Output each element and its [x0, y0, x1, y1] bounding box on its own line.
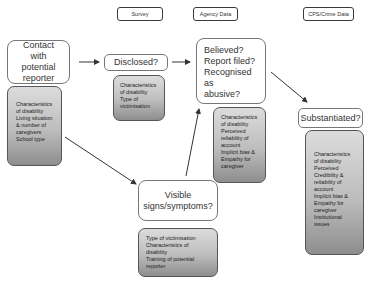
factor-line: reporter [146, 263, 211, 270]
factor-line: Empathy for [314, 200, 357, 207]
factors-disclosed: Characteristics of disability Type of vi… [113, 75, 165, 121]
node-visible-line-2: signs/symptoms? [143, 201, 213, 212]
header-agency-data: Agency Data [193, 7, 238, 21]
node-contact-label: Contact with potential reporter [14, 40, 63, 84]
factor-line: Characteristics of disability [146, 242, 211, 256]
factor-line: Institutional [314, 214, 357, 221]
factor-line: caregivers [16, 129, 55, 136]
node-disclosed: Disclosed? [104, 54, 168, 71]
factors-believed: Characteristics of disability Perceived … [213, 107, 266, 183]
factor-line: account [221, 142, 259, 149]
factors-substantiated: Characteristics of disability Perceived … [305, 130, 364, 255]
factor-line: of disability [221, 121, 259, 128]
factor-line: of disability [16, 108, 55, 115]
factor-line: Implicit bias & [314, 193, 357, 200]
factor-line: Characteristics [16, 101, 55, 108]
factor-line: reliability of [314, 179, 357, 186]
factor-line: Credibility & [314, 172, 357, 179]
arrow-visible-to-believed [186, 109, 199, 176]
factor-line: Implicit bias & [221, 149, 259, 156]
header-cps-crime-data: CPS/Crime Data [303, 7, 354, 21]
node-believed-line-3: Recognised as [204, 67, 258, 89]
factor-line: of disability [314, 158, 357, 165]
node-substantiated: Substantiated? [298, 108, 363, 128]
factor-line: reliability of [221, 135, 259, 142]
factors-contact: Characteristics of disability Living sit… [7, 86, 62, 166]
node-disclosed-label: Disclosed? [114, 57, 158, 68]
factor-line: Perceived [314, 165, 357, 172]
arrow-contact-to-visible [65, 137, 136, 184]
factor-line: account [314, 186, 357, 193]
node-substantiated-label: Substantiated? [300, 113, 360, 124]
node-visible-line-1: Visible [143, 190, 213, 201]
factor-line: of disability [120, 89, 158, 96]
factor-line: Type of victimisation [146, 235, 211, 242]
node-believed-line-2: Report filed? [204, 56, 258, 67]
factor-line: Training of potential [146, 256, 211, 263]
factor-line: & number of [16, 122, 55, 129]
node-believed: Believed? Report filed? Recognised as ab… [196, 38, 266, 104]
node-contact-with-reporter: Contact with potential reporter [7, 40, 70, 84]
factor-line: issues [314, 221, 357, 228]
factors-visible-signs: Type of victimisation Characteristics of… [138, 228, 218, 277]
factor-line: caregiver [221, 163, 259, 170]
factor-line: victimisation [120, 103, 158, 110]
factor-line: Perceived [221, 128, 259, 135]
node-believed-line-4: abusive? [204, 89, 258, 100]
factor-line: Living situation [16, 115, 55, 122]
factor-line: Characteristics [314, 151, 357, 158]
node-believed-line-1: Believed? [204, 45, 258, 56]
factor-line: Empathy for [221, 156, 259, 163]
factor-line: Characteristics [221, 114, 259, 121]
header-survey: Survey [117, 7, 163, 21]
factor-line: Characteristics [120, 82, 158, 89]
arrow-believed-to-substantiated [271, 72, 307, 102]
factor-line: Type of [120, 96, 158, 103]
node-visible-signs: Visible signs/symptoms? [138, 180, 218, 221]
factor-line: School type [16, 136, 55, 143]
factor-line: caregiver [314, 207, 357, 214]
